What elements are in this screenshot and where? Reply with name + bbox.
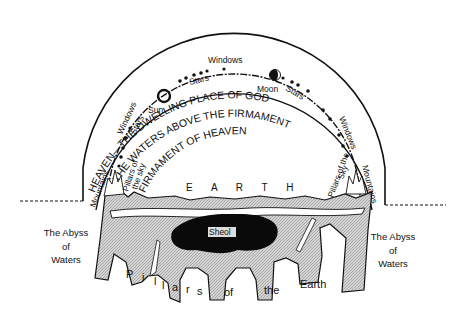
svg-text:l: l — [154, 275, 156, 287]
earth-label: E A R T H — [186, 182, 302, 193]
stars-label-right: Stars — [284, 83, 306, 102]
svg-text:l: l — [162, 279, 164, 291]
svg-text:a: a — [172, 281, 179, 293]
sheol-label: Sheol — [209, 227, 231, 237]
svg-text:P: P — [126, 268, 133, 280]
stars-label-top: Stars — [188, 72, 210, 87]
svg-text:Waters: Waters — [378, 258, 408, 269]
svg-text:Waters: Waters — [51, 254, 81, 265]
svg-text:of: of — [389, 245, 397, 256]
svg-text:Earth: Earth — [300, 278, 326, 290]
moon-icon — [270, 70, 281, 81]
svg-text:The Abyss: The Abyss — [44, 227, 89, 238]
abyss-left-label: The Abyss of Waters — [44, 227, 89, 265]
svg-text:i: i — [142, 271, 144, 283]
svg-text:of: of — [224, 286, 234, 298]
svg-text:r: r — [186, 283, 190, 295]
svg-text:of: of — [62, 241, 70, 252]
sun-label: Sun — [148, 105, 163, 115]
svg-text:s: s — [197, 285, 203, 297]
svg-text:The Abyss: The Abyss — [371, 231, 416, 242]
moon-label: Moon — [257, 84, 279, 94]
abyss-right-label: The Abyss of Waters — [371, 231, 416, 269]
cosmology-diagram: HEAVEN—THE DWELLING PLACE OF GOD THE WAT… — [0, 0, 468, 324]
windows-label-top: Windows — [208, 55, 242, 65]
svg-text:the: the — [264, 284, 279, 296]
